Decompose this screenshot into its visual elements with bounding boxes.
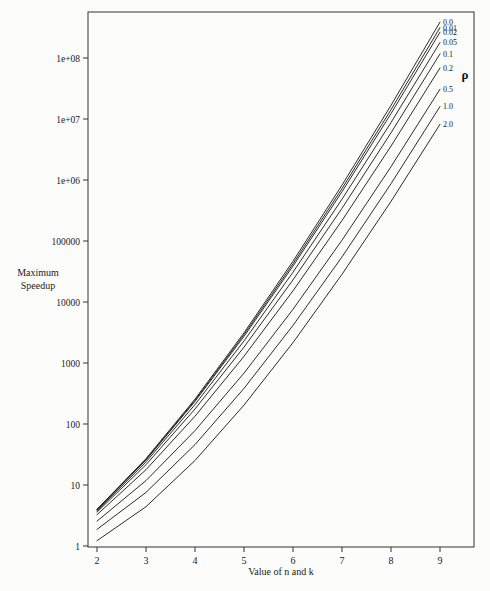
y-axis-title: Maximum Speedup xyxy=(0,266,76,292)
x-tick-label: 8 xyxy=(389,555,394,566)
x-tick-label: 5 xyxy=(242,555,247,566)
curve-label-rho-0.5: 0.5 xyxy=(443,85,453,94)
y-tick-label: 1000 xyxy=(61,359,80,369)
y-axis-title-line1: Maximum xyxy=(0,266,76,279)
curve-label-rho-0.2: 0.2 xyxy=(443,64,453,73)
curve-label-rho-0.05: 0.05 xyxy=(443,38,457,47)
curve-label-rho-1.0: 1.0 xyxy=(443,102,453,111)
rho-legend-label: ρ xyxy=(458,67,472,83)
x-tick-label: 2 xyxy=(95,555,100,566)
y-tick-label: 10000 xyxy=(56,298,80,308)
x-tick-label: 3 xyxy=(144,555,149,566)
curve-rho-0.05 xyxy=(97,43,440,511)
y-tick-label: 1e+06 xyxy=(56,176,80,186)
x-tick-label: 9 xyxy=(438,555,443,566)
speedup-chart-canvas: 1101001000100001000001e+061e+071e+082345… xyxy=(0,0,490,591)
y-tick-label: 1e+08 xyxy=(56,54,80,64)
y-tick-label: 100 xyxy=(66,420,81,430)
curve-label-rho-0.02: 0.02 xyxy=(443,28,457,37)
y-tick-label: 1 xyxy=(75,542,80,552)
x-axis-title: Value of n and k xyxy=(88,566,474,577)
y-tick-label: 10 xyxy=(71,481,81,491)
x-tick-label: 4 xyxy=(193,555,198,566)
curve-rho-0.01 xyxy=(97,28,440,510)
y-tick-label: 100000 xyxy=(52,237,81,247)
curve-rho-0.1 xyxy=(97,54,440,512)
curve-label-rho-2.0: 2.0 xyxy=(443,120,453,129)
y-axis-title-line2: Speedup xyxy=(0,279,76,292)
curve-label-rho-0.1: 0.1 xyxy=(443,50,453,59)
x-tick-label: 6 xyxy=(291,555,296,566)
curve-rho-0.0 xyxy=(97,22,440,509)
speedup-figure: 1101001000100001000001e+061e+071e+082345… xyxy=(0,0,490,591)
y-tick-label: 1e+07 xyxy=(56,115,80,125)
curve-rho-0.2 xyxy=(97,68,440,515)
x-tick-label: 7 xyxy=(340,555,345,566)
curve-rho-0.02 xyxy=(97,32,440,510)
